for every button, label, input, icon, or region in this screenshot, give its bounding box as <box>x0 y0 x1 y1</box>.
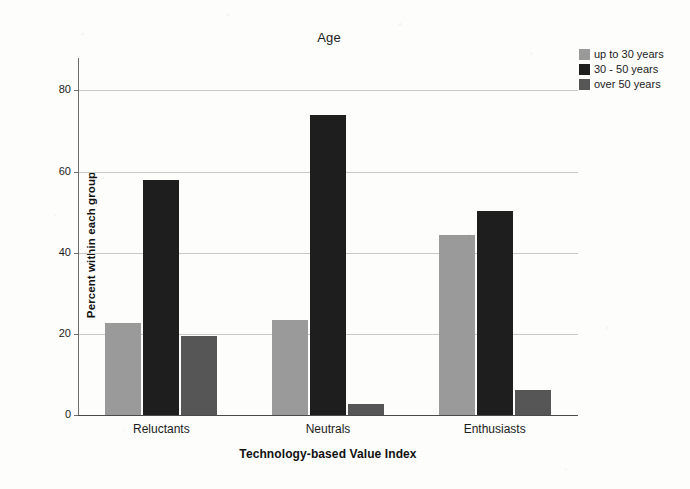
y-tick-mark-40 <box>74 253 78 254</box>
legend-swatch-over-50 <box>579 79 590 90</box>
bar-neutrals-up-to-30-years <box>272 320 308 415</box>
y-tick-label-0: 0 <box>65 408 71 420</box>
legend-item-over-50[interactable]: over 50 years <box>579 77 664 91</box>
y-tick-label-20: 20 <box>59 327 71 339</box>
bar-reluctants-up-to-30-years <box>105 323 141 415</box>
legend-swatch-up-to-30 <box>579 49 590 60</box>
legend-item-up-to-30[interactable]: up to 30 years <box>579 47 664 61</box>
x-category-label-neutrals: Neutrals <box>306 422 351 436</box>
bar-reluctants-30-50-years <box>143 180 179 415</box>
bar-enthusiasts-up-to-30-years <box>439 235 475 415</box>
chart-legend: up to 30 years 30 - 50 years over 50 yea… <box>579 47 664 92</box>
legend-label-30-to-50: 30 - 50 years <box>594 64 658 75</box>
y-tick-label-40: 40 <box>59 246 71 258</box>
bar-reluctants-over-50-years <box>181 336 217 415</box>
gridline-80 <box>79 90 578 91</box>
legend-label-over-50: over 50 years <box>594 79 661 90</box>
x-axis-title: Technology-based Value Index <box>78 447 578 461</box>
y-axis-line <box>78 58 79 415</box>
legend-item-30-to-50[interactable]: 30 - 50 years <box>579 62 664 76</box>
x-category-label-enthusiasts: Enthusiasts <box>464 422 526 436</box>
legend-swatch-30-to-50 <box>579 64 590 75</box>
chart-title-text: Age <box>317 30 341 45</box>
bar-neutrals-30-50-years <box>310 115 346 415</box>
y-tick-label-60: 60 <box>59 165 71 177</box>
y-tick-mark-20 <box>74 334 78 335</box>
y-tick-label-80: 80 <box>59 83 71 95</box>
x-axis-line <box>78 415 578 416</box>
legend-label-up-to-30: up to 30 years <box>594 49 664 60</box>
bar-enthusiasts-30-50-years <box>477 211 513 415</box>
y-tick-mark-80 <box>74 90 78 91</box>
x-category-label-reluctants: Reluctants <box>133 422 190 436</box>
y-tick-mark-60 <box>74 172 78 173</box>
bar-enthusiasts-over-50-years <box>515 390 551 415</box>
y-tick-mark-0 <box>74 415 78 416</box>
chart-title: Age <box>0 30 690 45</box>
bar-neutrals-over-50-years <box>348 404 384 415</box>
plot-area: 020406080 ReluctantsNeutralsEnthusiasts <box>78 58 578 415</box>
